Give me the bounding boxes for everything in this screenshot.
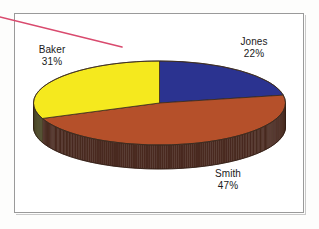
pie-slice-wall-smith	[135, 144, 137, 168]
pie-slice-wall-smith	[133, 144, 135, 168]
pie-slice-wall-smith	[155, 145, 157, 169]
pie-slice-wall-smith	[212, 141, 214, 165]
pie-slice-wall-smith	[70, 133, 72, 158]
pie-slice-wall-smith	[179, 144, 181, 168]
pie-slice-wall-smith	[63, 130, 64, 155]
pie-slice-wall-smith	[126, 144, 128, 168]
pie-slice-wall-smith	[214, 140, 216, 164]
pie-slice-wall-smith	[77, 135, 79, 159]
pie-slice-wall-smith	[168, 145, 170, 169]
pie-slice-wall-smith	[66, 131, 67, 156]
pie-slice-wall-smith	[200, 143, 202, 167]
pie-slice-wall-smith	[150, 145, 152, 169]
pie-slice-wall-smith	[204, 142, 206, 166]
pie-slice-wall-smith	[235, 136, 237, 160]
pie-slice-wall-smith	[67, 132, 69, 157]
pie-slice-wall-smith	[92, 139, 94, 163]
pie-slice-wall-smith	[170, 145, 172, 169]
pie-slice-wall-smith	[163, 145, 165, 169]
slice-label-baker-name: Baker	[22, 44, 82, 56]
pie-slice-wall-smith	[238, 135, 240, 159]
pie-slice-wall-smith	[187, 144, 189, 168]
pie-slice-wall-smith	[139, 144, 141, 168]
pie-slice-wall-smith	[64, 130, 65, 155]
pie-chart-figure: Jones 22% Baker 31% Smith 47%	[0, 0, 319, 229]
pie-slice-wall-smith	[166, 145, 168, 169]
pie-slice-wall-smith	[102, 140, 104, 164]
pie-slice-wall-smith	[129, 144, 131, 168]
pie-slice-wall-smith	[177, 145, 179, 169]
pie-slice-wall-smith	[122, 143, 124, 167]
pie-slice-wall-smith	[80, 136, 82, 160]
pie-slice-wall-smith	[206, 142, 208, 166]
pie-slice-wall-smith	[257, 129, 258, 154]
pie-slice-wall-smith	[245, 133, 247, 158]
pie-slice-wall-smith	[230, 137, 232, 161]
pie-slice-wall-smith	[73, 134, 75, 158]
pie-slice-wall-smith	[144, 145, 146, 169]
pie-slice-wall-smith	[85, 137, 87, 161]
pie-slice-wall-smith	[61, 129, 62, 154]
pie-slice-wall-smith	[248, 132, 250, 157]
pie-slice-wall-smith	[250, 132, 252, 157]
pie-slice-wall-smith	[256, 130, 257, 155]
pie-slice-wall-smith	[174, 145, 176, 169]
pie-slice-wall-smith	[142, 145, 144, 169]
pie-slice-wall-smith	[222, 139, 224, 163]
pie-slice-wall-smith	[157, 145, 159, 169]
pie-slice-wall-smith	[237, 136, 239, 160]
pie-slice-wall-smith	[118, 143, 120, 167]
pie-slice-wall-smith	[148, 145, 150, 169]
slice-label-smith-percent: 47%	[198, 180, 258, 192]
pie-slice-wall-smith	[231, 137, 233, 161]
pie-slice-wall-smith	[124, 143, 126, 167]
pie-slice-wall-smith	[208, 141, 210, 165]
pie-slice-wall-smith	[83, 136, 85, 160]
pie-slice-wall-smith	[233, 137, 235, 161]
pie-slice-wall-smith	[251, 131, 252, 156]
slice-label-jones-percent: 22%	[224, 48, 284, 60]
pie-slice-wall-smith	[228, 138, 230, 162]
pie-slice-wall-smith	[89, 138, 91, 162]
pie-slice-wall-smith	[98, 140, 100, 164]
slice-label-jones-name: Jones	[224, 36, 284, 48]
pie-slice-wall-smith	[202, 142, 204, 166]
pie-slice-wall-smith	[190, 144, 192, 168]
pie-slice-wall-smith	[108, 141, 110, 165]
pie-slice-wall-smith	[146, 145, 148, 169]
pie-slice-wall-smith	[104, 141, 106, 165]
slice-label-jones: Jones 22%	[224, 36, 284, 60]
pie-slice-wall-smith	[183, 144, 185, 168]
pie-slice-wall-smith	[172, 145, 174, 169]
pie-slice-wall-smith	[94, 139, 96, 163]
slice-label-baker: Baker 31%	[22, 44, 82, 68]
pie-slice-wall-smith	[137, 144, 139, 168]
pie-slice-wall-smith	[185, 144, 187, 168]
pie-slice-wall-smith	[247, 133, 249, 158]
pie-slice-wall-smith	[224, 139, 226, 163]
pie-slice-wall-smith	[259, 128, 260, 153]
slice-label-smith: Smith 47%	[198, 168, 258, 192]
pie-slice-wall-smith	[218, 140, 220, 164]
pie-slice-wall-smith	[198, 143, 200, 167]
pie-slice-wall-smith	[210, 141, 212, 165]
pie-slice-wall-smith	[152, 145, 154, 169]
pie-slice-wall-smith	[69, 132, 71, 157]
pie-slice-wall-smith	[226, 138, 228, 162]
slice-label-baker-percent: 31%	[22, 56, 82, 68]
pie-slice-wall-smith	[91, 138, 93, 162]
pie-slice-wall-smith	[242, 134, 244, 158]
pie-slice-wall-smith	[82, 136, 84, 160]
pie-slice-wall-smith	[181, 144, 183, 168]
pie-slice-wall-smith	[100, 140, 102, 164]
pie-slice-wall-smith	[161, 145, 163, 169]
pie-slice-wall-smith	[194, 143, 196, 167]
pie-slice-wall-smith	[159, 145, 161, 169]
pie-slice-wall-smith	[196, 143, 198, 167]
pie-slice-wall-smith	[75, 134, 77, 158]
pie-slice-wall-smith	[87, 137, 89, 161]
pie-slice-wall-smith	[96, 139, 98, 163]
pie-slice-wall-smith	[240, 135, 242, 159]
pie-slice-wall-smith	[120, 143, 122, 167]
pie-slice-wall-smith	[254, 130, 255, 155]
